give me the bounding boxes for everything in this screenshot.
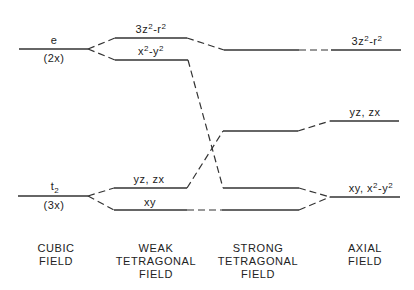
column-label-line: TETRAGONAL [216, 255, 300, 268]
term: 3z [136, 23, 149, 35]
column-label-line: WEAK [114, 242, 198, 255]
label-cubic-t2-degeneracy: (3x) [38, 199, 70, 212]
column-label-line: FIELD [340, 255, 390, 268]
level-name: e [51, 34, 58, 46]
superscript: 2 [159, 44, 164, 53]
column-label-line: AXIAL [340, 242, 390, 255]
superscript: 2 [161, 22, 166, 31]
degeneracy: (3x) [44, 199, 65, 211]
subscript: 2 [54, 186, 59, 195]
column-label-line: STRONG [216, 242, 300, 255]
label-weak-x2-y2: x2-y2 [128, 45, 174, 58]
column-label-cubic: CUBIC FIELD [28, 242, 84, 268]
term: yz, zx [133, 173, 164, 185]
column-label-line: FIELD [216, 268, 300, 281]
column-label-line: FIELD [114, 268, 198, 281]
degeneracy: (2x) [44, 52, 65, 64]
column-label-line: TETRAGONAL [114, 255, 198, 268]
term: 3z [352, 35, 365, 47]
term: -y [378, 182, 388, 194]
column-label-axial: AXIAL FIELD [340, 242, 390, 268]
label-weak-yz-zx: yz, zx [124, 173, 174, 186]
superscript: 2 [377, 34, 382, 43]
column-label-line: CUBIC [28, 242, 84, 255]
label-cubic-e-degeneracy: (2x) [38, 52, 70, 65]
label-cubic-t2: t2 [45, 180, 65, 197]
term: xy [144, 196, 156, 208]
label-weak-3z2-r2: 3z2-r2 [126, 23, 176, 36]
column-label-line: FIELD [28, 255, 84, 268]
superscript: 2 [388, 181, 393, 190]
term: -y [149, 45, 159, 57]
term: xy, x [349, 182, 373, 194]
column-label-strong: STRONG TETRAGONAL FIELD [216, 242, 300, 281]
term: yz, zx [349, 106, 380, 118]
column-label-weak: WEAK TETRAGONAL FIELD [114, 242, 198, 281]
label-weak-xy: xy [138, 196, 162, 209]
label-cubic-e: e [47, 34, 61, 47]
label-axial-xy-x2-y2: xy, x2-y2 [336, 182, 406, 195]
label-axial-yz-zx: yz, zx [340, 106, 390, 119]
label-axial-3z2-r2: 3z2-r2 [340, 35, 394, 48]
